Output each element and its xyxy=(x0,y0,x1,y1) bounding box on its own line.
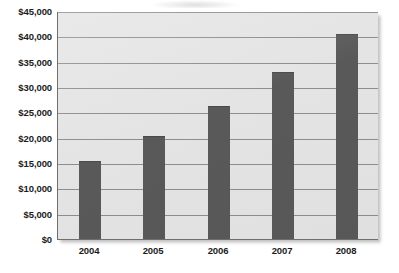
x-axis: 20042005200620072008 xyxy=(57,245,378,261)
x-axis-tick-label: 2007 xyxy=(252,245,312,257)
y-axis-tick-label: $45,000 xyxy=(0,7,52,17)
y-axis-tick-label: $0 xyxy=(0,235,52,245)
x-axis-tick-label: 2006 xyxy=(188,245,248,257)
y-axis-tick-label: $30,000 xyxy=(0,83,52,93)
x-axis-tick-label: 2004 xyxy=(59,245,119,257)
y-axis-tick-label: $10,000 xyxy=(0,184,52,194)
plot-area xyxy=(57,12,378,240)
bars-group xyxy=(58,12,378,239)
y-axis-tick-label: $40,000 xyxy=(0,32,52,42)
bar xyxy=(143,136,165,239)
bar xyxy=(79,161,101,239)
y-axis: $0$5,000$10,000$15,000$20,000$25,000$30,… xyxy=(0,12,52,240)
y-axis-tick-label: $15,000 xyxy=(0,159,52,169)
y-axis-tick-label: $35,000 xyxy=(0,58,52,68)
x-axis-tick-label: 2008 xyxy=(316,245,376,257)
scan-artifact xyxy=(150,0,240,8)
bar xyxy=(272,72,294,239)
bar-chart-figure: $0$5,000$10,000$15,000$20,000$25,000$30,… xyxy=(0,0,399,273)
bar xyxy=(336,34,358,239)
bar xyxy=(208,106,230,239)
y-axis-tick-label: $20,000 xyxy=(0,134,52,144)
y-axis-tick-label: $5,000 xyxy=(0,210,52,220)
x-axis-tick-label: 2005 xyxy=(123,245,183,257)
y-axis-tick-label: $25,000 xyxy=(0,108,52,118)
